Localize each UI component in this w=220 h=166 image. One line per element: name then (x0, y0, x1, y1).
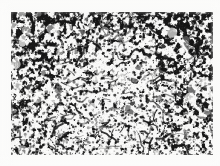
texture-plate (11, 12, 213, 155)
micrograph-image (0, 0, 220, 166)
texture-canvas (11, 12, 213, 155)
